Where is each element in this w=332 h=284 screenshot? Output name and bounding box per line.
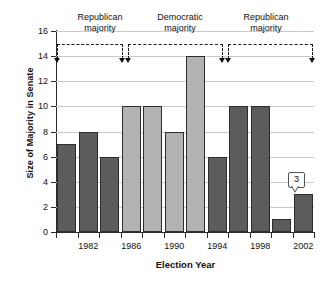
x-tick-5 — [164, 233, 165, 238]
bar-1980 — [57, 144, 76, 232]
bar-1982 — [79, 132, 98, 233]
x-tick-10 — [271, 233, 272, 238]
bracket-arrow-republican-1-left — [54, 58, 60, 63]
x-tick-label-1998: 1998 — [240, 241, 280, 251]
bars-layer — [56, 31, 314, 232]
period-label-democratic: Democratic majority — [132, 12, 228, 34]
bracket-republican-1-top — [57, 44, 123, 46]
bracket-democratic-stem-right — [222, 44, 224, 59]
x-tick-label-2002: 2002 — [283, 241, 323, 251]
x-tick-3 — [121, 233, 122, 238]
period-label-republican-2: Republican majority — [218, 12, 314, 34]
bracket-arrow-democratic-left — [125, 58, 131, 63]
x-tick-0 — [56, 233, 57, 238]
x-tick-12 — [314, 233, 315, 238]
period-label-line2: majority — [250, 23, 282, 33]
y-tick-label-0: 0 — [26, 227, 48, 237]
bar-2002 — [294, 194, 313, 232]
y-tick-label-2: 2 — [26, 202, 48, 212]
x-tick-7 — [207, 233, 208, 238]
bracket-republican-2-top — [228, 44, 313, 46]
y-tick-label-4: 4 — [26, 177, 48, 187]
bracket-arrow-republican-2-left — [225, 58, 231, 63]
y-tick-label-8: 8 — [26, 127, 48, 137]
bracket-arrow-republican-2-right — [309, 58, 315, 63]
bar-1996 — [229, 106, 248, 232]
y-tick-label-6: 6 — [26, 152, 48, 162]
x-tick-8 — [228, 233, 229, 238]
bracket-republican-2-stem-right — [312, 44, 314, 59]
x-tick-11 — [293, 233, 294, 238]
y-tick-label-16: 16 — [26, 26, 48, 36]
bar-chart: Size of Majority in Senate 0246810121416… — [0, 0, 332, 284]
bracket-republican-1-stem-left — [57, 44, 59, 59]
bar-1988 — [143, 106, 162, 232]
bar-1990 — [165, 132, 184, 233]
x-tick-label-1994: 1994 — [197, 241, 237, 251]
x-axis-title: Election Year — [56, 259, 315, 270]
x-tick-label-1982: 1982 — [68, 241, 108, 251]
x-tick-9 — [250, 233, 251, 238]
x-tick-label-1990: 1990 — [154, 241, 194, 251]
x-tick-6 — [185, 233, 186, 238]
bar-1998 — [251, 106, 270, 232]
period-label-line1: Democratic — [157, 12, 203, 22]
period-label-line2: majority — [84, 23, 116, 33]
period-label-line2: majority — [164, 23, 196, 33]
bar-1986 — [122, 106, 141, 232]
x-tick-2 — [99, 233, 100, 238]
bar-1984 — [100, 157, 119, 232]
x-tick-4 — [142, 233, 143, 238]
bracket-republican-1-stem-right — [122, 44, 124, 59]
bar-1992 — [186, 56, 205, 232]
x-tick-label-1986: 1986 — [111, 241, 151, 251]
period-label-line1: Republican — [77, 12, 122, 22]
y-tick-label-14: 14 — [26, 51, 48, 61]
bracket-democratic-top — [128, 44, 223, 46]
period-label-line1: Republican — [243, 12, 288, 22]
y-tick-label-10: 10 — [26, 101, 48, 111]
value-callout-tail-inner — [292, 186, 298, 191]
y-tick-label-12: 12 — [26, 76, 48, 86]
x-tick-1 — [78, 233, 79, 238]
bracket-republican-2-stem-left — [228, 44, 230, 59]
bar-2000 — [272, 219, 291, 232]
bar-1994 — [208, 157, 227, 232]
bracket-democratic-stem-left — [128, 44, 130, 59]
